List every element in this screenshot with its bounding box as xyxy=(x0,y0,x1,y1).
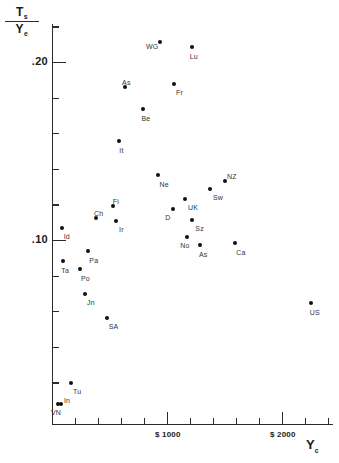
y-axis-title: Ts Ye xyxy=(5,6,39,38)
data-point-label: Tu xyxy=(73,388,81,395)
data-point-label: Id xyxy=(64,233,70,240)
data-point xyxy=(61,259,65,263)
data-point xyxy=(69,381,73,385)
y-tick-mark xyxy=(53,98,59,99)
data-point xyxy=(190,218,194,222)
data-point xyxy=(114,219,118,223)
y-tick-label: .20 xyxy=(20,55,48,67)
data-point xyxy=(83,292,87,296)
data-point-label: Po xyxy=(81,275,90,282)
x-axis-line xyxy=(52,424,333,425)
x-tick-mark xyxy=(328,418,329,424)
data-point xyxy=(117,139,121,143)
data-point xyxy=(185,235,189,239)
x-tick-mark xyxy=(167,412,168,424)
data-point-label: In xyxy=(64,397,70,404)
data-point xyxy=(60,226,64,230)
x-tick-mark xyxy=(121,418,122,424)
data-point-label: WG xyxy=(146,43,158,50)
data-point xyxy=(190,45,194,49)
y-axis-title-denominator-subscript: e xyxy=(24,31,28,38)
x-tick-mark xyxy=(236,418,237,424)
y-tick-mark xyxy=(53,133,59,134)
y-tick-mark xyxy=(53,204,59,205)
data-point-label: Fr xyxy=(176,89,183,96)
x-tick-label: $ 1000 xyxy=(155,430,181,439)
data-point-label: As xyxy=(199,251,208,258)
data-point-label: US xyxy=(310,309,320,316)
data-point xyxy=(198,243,202,247)
data-point xyxy=(105,316,109,320)
data-point-label: Ne xyxy=(159,181,168,188)
data-point-label: Pa xyxy=(89,257,98,264)
data-point xyxy=(86,249,90,253)
data-point-label: VN xyxy=(51,409,61,416)
data-point xyxy=(233,241,237,245)
data-point-label: Ch xyxy=(94,210,103,217)
y-tick-mark xyxy=(53,62,66,63)
data-point-label: Ca xyxy=(236,249,245,256)
data-point xyxy=(172,82,176,86)
y-axis-title-numerator-subscript: s xyxy=(24,13,28,20)
x-tick-mark xyxy=(305,418,306,424)
x-tick-mark xyxy=(259,418,260,424)
scatter-plot-figure: Ts Ye .20.10 $ 1000$ 2000 WGLuAsFrBeItNe… xyxy=(0,0,339,463)
y-tick-label: .10 xyxy=(20,233,48,245)
data-point-label: Ta xyxy=(61,267,69,274)
data-point-label: Be xyxy=(142,115,151,122)
data-point-label: Ir xyxy=(119,226,124,233)
data-point-label: D xyxy=(165,214,170,221)
x-tick-mark xyxy=(98,418,99,424)
y-axis-title-denominator: Y xyxy=(16,22,25,36)
data-point-label: As xyxy=(122,79,131,86)
data-point-label: No xyxy=(180,242,189,249)
data-point-label: UK xyxy=(188,204,198,211)
data-point-label: Fi xyxy=(113,198,119,205)
x-tick-label: $ 2000 xyxy=(270,430,296,439)
data-point xyxy=(141,107,145,111)
data-point-label: SA xyxy=(109,323,119,330)
y-tick-mark xyxy=(53,311,59,312)
x-axis-title: Yc xyxy=(306,437,319,454)
data-point xyxy=(208,187,212,191)
y-axis-line xyxy=(52,24,53,425)
x-tick-mark xyxy=(213,418,214,424)
data-point xyxy=(183,197,187,201)
y-tick-mark xyxy=(53,26,59,27)
data-point-label: It xyxy=(119,147,123,154)
data-point-label: NZ xyxy=(227,173,237,180)
x-axis-title-subscript: c xyxy=(315,447,319,454)
y-tick-mark xyxy=(53,382,59,383)
x-axis-title-main: Y xyxy=(306,437,315,452)
data-point xyxy=(158,40,162,44)
data-point-label: Sz xyxy=(195,225,204,232)
x-tick-mark xyxy=(282,412,283,424)
data-point-label: Jn xyxy=(87,299,95,306)
x-tick-mark xyxy=(144,418,145,424)
y-axis-title-numerator: T xyxy=(16,5,24,19)
data-point-label: Sw xyxy=(213,194,223,201)
x-tick-mark xyxy=(190,418,191,424)
data-point xyxy=(171,207,175,211)
y-tick-mark xyxy=(53,347,59,348)
x-tick-mark xyxy=(75,418,76,424)
data-point xyxy=(156,173,160,177)
y-tick-mark xyxy=(53,276,59,277)
data-point xyxy=(309,301,313,305)
data-point-label: Lu xyxy=(190,53,198,60)
data-point xyxy=(78,267,82,271)
y-tick-mark xyxy=(53,169,59,170)
